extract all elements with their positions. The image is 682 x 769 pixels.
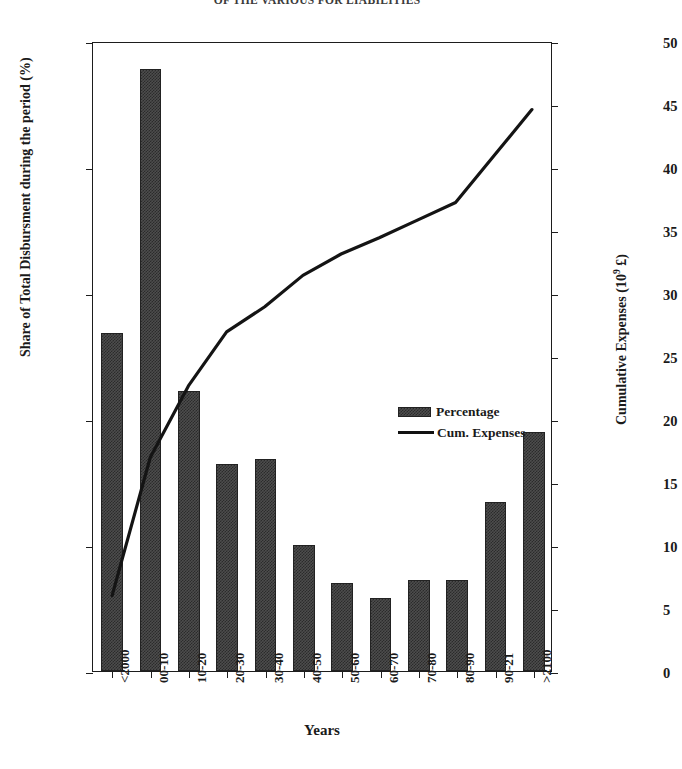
bar-slot <box>131 43 169 671</box>
bar-slot <box>246 43 284 671</box>
y2-tick <box>551 169 558 170</box>
y2-tick <box>551 358 558 359</box>
y-tick <box>86 295 93 296</box>
bar-slot <box>476 43 514 671</box>
bars-layer <box>93 43 551 671</box>
x-tick <box>342 671 343 678</box>
plot-area: 0510152025 05101520253035404550 <200000-… <box>92 42 552 672</box>
x-tick-label-60-70: 60-70 <box>386 653 402 683</box>
bar-slot <box>515 43 553 671</box>
x-tick-label-2000: <2000 <box>117 650 133 683</box>
x-tick <box>151 671 152 678</box>
legend-item-cum-expenses: Cum. Expenses <box>398 422 526 443</box>
x-tick-label-2100: >2100 <box>539 650 555 683</box>
x-tick-label-70-80: 70-80 <box>424 653 440 683</box>
y2-tick <box>551 610 558 611</box>
y-axis-title: Share of Total Disbursment during the pe… <box>18 57 34 357</box>
bar-30-40[interactable] <box>255 459 276 671</box>
y-tick <box>86 421 93 422</box>
y2-tick-label: 30 <box>663 288 682 303</box>
y-tick <box>86 673 93 674</box>
bar-slot <box>400 43 438 671</box>
y2-axis-title-exponent: 9 <box>612 269 622 274</box>
x-tick <box>457 671 458 678</box>
x-tick <box>112 671 113 678</box>
x-tick-label-40-50: 40-50 <box>309 653 325 683</box>
y2-tick <box>551 295 558 296</box>
y-tick <box>86 169 93 170</box>
y2-tick-label: 25 <box>663 351 682 366</box>
y2-tick <box>551 547 558 548</box>
y2-tick-label: 35 <box>663 225 682 240</box>
y2-tick-label: 40 <box>663 162 682 177</box>
legend-label-percentage: Percentage <box>436 404 499 420</box>
y2-tick-label: 10 <box>663 540 682 555</box>
y2-tick-label: 20 <box>663 414 682 429</box>
x-tick-label-90-21: 90-21 <box>501 653 517 683</box>
y2-axis-title-base: Cumulative Expenses (10 <box>614 274 629 425</box>
bar-2100[interactable] <box>523 432 544 671</box>
bar-10-20[interactable] <box>178 391 199 671</box>
y2-tick-label: 15 <box>663 477 682 492</box>
x-tick <box>534 671 535 678</box>
x-tick-label-50-60: 50-60 <box>347 653 363 683</box>
x-axis-title: Years <box>92 722 552 739</box>
y2-tick-label: 0 <box>663 666 682 681</box>
bar-2000[interactable] <box>101 333 122 671</box>
y2-tick-label: 50 <box>663 36 682 51</box>
x-tick-label-10-20: 10-20 <box>194 653 210 683</box>
x-tick-label-80-90: 80-90 <box>462 653 478 683</box>
x-tick <box>189 671 190 678</box>
y2-axis-title-tail: £) <box>614 254 629 269</box>
x-tick <box>227 671 228 678</box>
y-tick <box>86 43 93 44</box>
y-tick <box>86 547 93 548</box>
y2-axis-title: Cumulative Expenses (109 £) <box>612 254 630 425</box>
bar-slot <box>208 43 246 671</box>
y2-tick <box>551 43 558 44</box>
x-tick <box>266 671 267 678</box>
x-tick <box>304 671 305 678</box>
y2-tick <box>551 484 558 485</box>
bar-slot <box>285 43 323 671</box>
bar-slot <box>170 43 208 671</box>
bar-20-30[interactable] <box>216 464 237 671</box>
x-tick <box>381 671 382 678</box>
x-tick-label-20-30: 20-30 <box>232 653 248 683</box>
bar-slot <box>93 43 131 671</box>
line-swatch-icon <box>398 431 434 434</box>
legend-item-percentage: Percentage <box>398 401 526 422</box>
y2-tick-label: 5 <box>663 603 682 618</box>
hatched-bar-swatch-icon <box>398 407 431 417</box>
bar-90-21[interactable] <box>485 502 506 671</box>
chart-legend: Percentage Cum. Expenses <box>398 401 526 443</box>
x-tick <box>496 671 497 678</box>
x-tick-label-00-10: 00-10 <box>156 653 172 683</box>
y2-tick-label: 45 <box>663 99 682 114</box>
bar-00-10[interactable] <box>140 69 161 671</box>
bar-slot <box>361 43 399 671</box>
bar-slot <box>323 43 361 671</box>
x-tick <box>419 671 420 678</box>
y2-tick <box>551 421 558 422</box>
x-tick-label-30-40: 30-40 <box>271 653 287 683</box>
y2-tick <box>551 106 558 107</box>
y2-tick <box>551 232 558 233</box>
bar-slot <box>438 43 476 671</box>
legend-label-cum-expenses: Cum. Expenses <box>437 425 526 441</box>
